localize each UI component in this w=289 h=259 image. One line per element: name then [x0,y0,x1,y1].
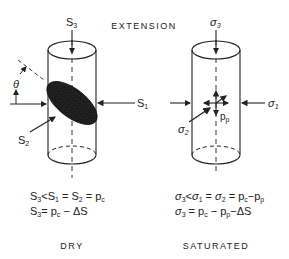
dry-equation-2: S3= pc − ΔS [30,205,88,218]
saturated-caption: SATURATED [183,241,250,251]
dry-equation-1: S3<S1 = S2 = pc [30,190,105,203]
sigma1-label: σ1 [268,97,279,110]
s1-label: S1 [137,97,148,110]
theta-label: θ [13,78,19,90]
sigma3-label: σ3 [210,16,221,29]
stress-diagram: EXTENSION S3 S1 S2 θ S3<S1 = S2 = pc S3=… [0,0,289,259]
theta-arrow-upper [20,67,26,74]
dry-caption: DRY [60,241,83,251]
s2-arrow [30,117,55,132]
diagram-canvas: EXTENSION S3 S1 S2 θ S3<S1 = S2 = pc S3=… [0,0,289,259]
saturated-equation-2: σ3 = pc − pp−ΔS [175,205,251,219]
saturated-equation-1: σ3<σ1 = σ2 = pc−pp [175,190,264,204]
s3-label: S3 [66,16,77,29]
title-extension: EXTENSION [111,21,177,31]
s2-label: S2 [18,134,29,147]
pore-pressure-label: pp [220,111,230,124]
sigma2-label: σ2 [178,123,189,136]
normal-line [18,60,44,80]
